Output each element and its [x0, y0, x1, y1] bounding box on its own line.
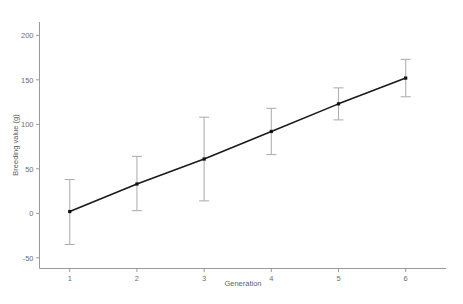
y-tick-label: 100 [21, 120, 34, 129]
data-point-marker [135, 182, 138, 185]
y-tick-label: 0 [29, 209, 33, 218]
x-axis-title: Generation [224, 279, 261, 288]
data-point-marker [203, 157, 206, 160]
y-tick-label: 50 [25, 165, 33, 174]
data-point-marker [337, 102, 340, 105]
y-tick-label: 200 [21, 31, 34, 40]
chart-background [0, 0, 463, 304]
x-tick-label: 5 [336, 274, 340, 283]
y-tick-label: 150 [21, 76, 34, 85]
x-tick-label: 1 [68, 274, 72, 283]
data-point-marker [404, 76, 407, 79]
data-point-marker [270, 130, 273, 133]
line-chart-with-error-bars: -50050100150200 123456 Generation Breedi… [0, 0, 463, 304]
x-tick-label: 3 [202, 274, 206, 283]
x-tick-label: 2 [135, 274, 139, 283]
y-tick-label: -50 [23, 254, 34, 263]
x-tick-label: 4 [269, 274, 273, 283]
chart-figure: -50050100150200 123456 Generation Breedi… [0, 0, 463, 304]
y-axis-title: Breeding value (g) [11, 114, 20, 176]
x-tick-label: 6 [404, 274, 408, 283]
data-point-marker [68, 210, 71, 213]
